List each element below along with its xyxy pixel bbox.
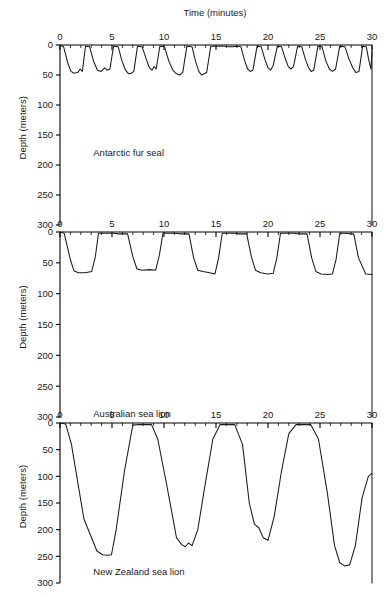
y-axis-title: Depth (meters) xyxy=(17,465,28,528)
y-tick-label: 100 xyxy=(37,99,53,110)
y-tick-label: 0 xyxy=(48,417,53,428)
y-tick-label: 50 xyxy=(42,444,53,455)
x-tick-label: 25 xyxy=(315,409,326,420)
y-axis-title: Depth (meters) xyxy=(17,96,28,159)
y-tick-label: 250 xyxy=(37,381,53,392)
x-tick-label: 10 xyxy=(159,218,170,229)
x-tick-label: 30 xyxy=(367,31,378,42)
x-tick-label: 20 xyxy=(263,218,274,229)
x-tick-label: 30 xyxy=(367,409,378,420)
y-tick-label: 50 xyxy=(42,257,53,268)
x-tick-label: 5 xyxy=(109,409,114,420)
y-tick-label: 100 xyxy=(37,288,53,299)
y-tick-label: 0 xyxy=(48,39,53,50)
series-label-antarctic-fur-seal: Antarctic fur seal xyxy=(93,147,164,158)
x-tick-label: 30 xyxy=(367,218,378,229)
x-tick-label: 15 xyxy=(211,409,222,420)
x-tick-label: 5 xyxy=(109,218,114,229)
y-tick-label: 250 xyxy=(37,189,53,200)
x-tick-label: 10 xyxy=(159,31,170,42)
x-tick-label: 5 xyxy=(109,31,114,42)
x-tick-label: 0 xyxy=(57,31,62,42)
figure-background xyxy=(0,0,391,597)
x-tick-label: 0 xyxy=(57,218,62,229)
y-tick-label: 150 xyxy=(37,497,53,508)
y-axis-title: Depth (meters) xyxy=(17,285,28,348)
y-tick-label: 50 xyxy=(42,69,53,80)
y-tick-label: 200 xyxy=(37,159,53,170)
x-tick-label: 15 xyxy=(211,218,222,229)
x-tick-label: 25 xyxy=(315,218,326,229)
y-tick-label: 100 xyxy=(37,471,53,482)
x-axis-title: Time (minutes) xyxy=(184,7,247,18)
x-tick-label: 10 xyxy=(159,409,170,420)
y-tick-label: 0 xyxy=(48,226,53,237)
y-tick-label: 200 xyxy=(37,524,53,535)
y-tick-label: 200 xyxy=(37,350,53,361)
x-tick-label: 25 xyxy=(315,31,326,42)
x-tick-label: 15 xyxy=(211,31,222,42)
y-tick-label: 300 xyxy=(37,577,53,588)
x-tick-label: 20 xyxy=(263,409,274,420)
y-tick-label: 150 xyxy=(37,319,53,330)
dive-profile-figure: Time (minutes) 0501001502002503000510152… xyxy=(0,0,391,597)
series-label-new-zealand-sea-lion: New Zealand sea lion xyxy=(93,566,184,577)
y-tick-label: 150 xyxy=(37,129,53,140)
y-tick-label: 250 xyxy=(37,551,53,562)
x-tick-label: 20 xyxy=(263,31,274,42)
x-tick-label: 0 xyxy=(57,409,62,420)
